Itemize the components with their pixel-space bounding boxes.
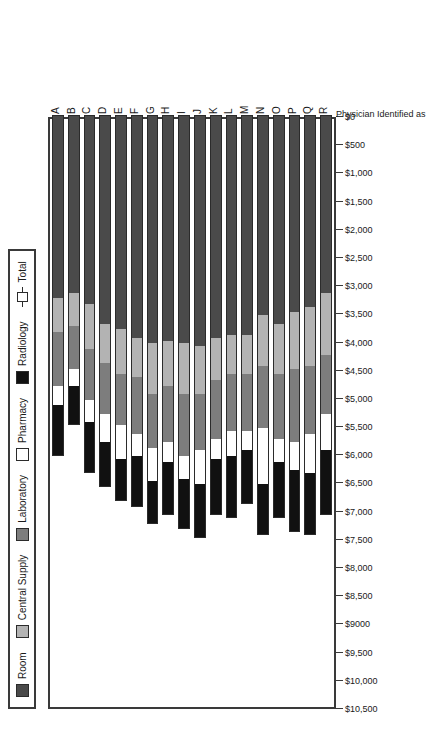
bar-segment-radio[interactable] <box>178 479 190 530</box>
bar-row[interactable] <box>194 119 206 707</box>
bar-segment-lab[interactable] <box>115 374 127 425</box>
bar-segment-room[interactable] <box>131 115 143 338</box>
bar-segment-pharm[interactable] <box>131 434 143 457</box>
bar-segment-room[interactable] <box>241 115 253 335</box>
bar-segment-central[interactable] <box>320 293 332 355</box>
stacked-bar-p[interactable] <box>289 115 301 532</box>
stacked-bar-i[interactable] <box>178 115 190 529</box>
bar-segment-lab[interactable] <box>131 377 143 433</box>
stacked-bar-b[interactable] <box>68 115 80 425</box>
bar-segment-lab[interactable] <box>99 363 111 414</box>
bar-segment-pharm[interactable] <box>99 414 111 442</box>
bar-segment-pharm[interactable] <box>320 414 332 451</box>
bar-segment-pharm[interactable] <box>226 431 238 456</box>
bar-segment-radio[interactable] <box>210 459 222 515</box>
bar-segment-radio[interactable] <box>68 386 80 425</box>
bar-segment-pharm[interactable] <box>84 400 96 423</box>
stacked-bar-g[interactable] <box>147 115 159 524</box>
bar-row[interactable] <box>68 119 80 707</box>
stacked-bar-a[interactable] <box>52 115 64 456</box>
bar-segment-room[interactable] <box>52 115 64 298</box>
bar-segment-central[interactable] <box>178 343 190 394</box>
bar-segment-pharm[interactable] <box>178 456 190 479</box>
bar-segment-central[interactable] <box>241 335 253 374</box>
bar-segment-lab[interactable] <box>194 394 206 450</box>
bar-segment-pharm[interactable] <box>257 428 269 484</box>
bar-segment-central[interactable] <box>84 304 96 349</box>
bar-segment-radio[interactable] <box>115 459 127 501</box>
bar-segment-lab[interactable] <box>304 366 316 434</box>
bar-segment-lab[interactable] <box>273 374 285 439</box>
bar-segment-room[interactable] <box>162 115 174 341</box>
stacked-bar-o[interactable] <box>273 115 285 518</box>
bar-row[interactable] <box>273 119 285 707</box>
bar-segment-central[interactable] <box>194 346 206 394</box>
bar-segment-pharm[interactable] <box>273 439 285 462</box>
bar-segment-room[interactable] <box>289 115 301 312</box>
bar-segment-central[interactable] <box>210 338 222 380</box>
bar-segment-room[interactable] <box>304 115 316 307</box>
stacked-bar-r[interactable] <box>320 115 332 515</box>
bar-segment-central[interactable] <box>115 329 127 374</box>
stacked-bar-f[interactable] <box>131 115 143 507</box>
bar-row[interactable] <box>52 119 64 707</box>
bar-segment-pharm[interactable] <box>241 431 253 451</box>
bar-segment-central[interactable] <box>52 298 64 332</box>
bar-segment-radio[interactable] <box>289 470 301 532</box>
bar-segment-lab[interactable] <box>52 332 64 386</box>
bar-segment-pharm[interactable] <box>162 442 174 462</box>
bar-row[interactable] <box>115 119 127 707</box>
bar-segment-radio[interactable] <box>52 405 64 456</box>
bar-segment-radio[interactable] <box>99 442 111 487</box>
bar-segment-lab[interactable] <box>257 366 269 428</box>
stacked-bar-c[interactable] <box>84 115 96 473</box>
bar-segment-room[interactable] <box>273 115 285 324</box>
bar-segment-radio[interactable] <box>162 462 174 516</box>
stacked-bar-n[interactable] <box>257 115 269 535</box>
bar-segment-central[interactable] <box>68 293 80 327</box>
bar-segment-pharm[interactable] <box>115 425 127 459</box>
stacked-bar-k[interactable] <box>210 115 222 515</box>
bar-segment-lab[interactable] <box>320 355 332 414</box>
bar-row[interactable] <box>257 119 269 707</box>
bar-segment-room[interactable] <box>99 115 111 324</box>
bar-segment-radio[interactable] <box>304 473 316 535</box>
bar-row[interactable] <box>147 119 159 707</box>
bar-segment-radio[interactable] <box>131 456 143 507</box>
bar-segment-central[interactable] <box>162 341 174 386</box>
bar-segment-radio[interactable] <box>194 484 206 538</box>
bar-row[interactable] <box>162 119 174 707</box>
bar-segment-lab[interactable] <box>226 374 238 430</box>
bar-segment-central[interactable] <box>131 338 143 377</box>
bar-segment-lab[interactable] <box>289 369 301 442</box>
bar-segment-central[interactable] <box>273 324 285 375</box>
bar-segment-lab[interactable] <box>178 394 190 456</box>
bar-segment-radio[interactable] <box>320 450 332 515</box>
bar-row[interactable] <box>241 119 253 707</box>
bar-segment-pharm[interactable] <box>304 434 316 473</box>
bar-segment-room[interactable] <box>226 115 238 335</box>
bar-segment-central[interactable] <box>99 324 111 363</box>
stacked-bar-m[interactable] <box>241 115 253 504</box>
bar-segment-pharm[interactable] <box>52 386 64 406</box>
bar-segment-central[interactable] <box>226 335 238 374</box>
bar-row[interactable] <box>320 119 332 707</box>
bar-segment-room[interactable] <box>68 115 80 293</box>
bar-row[interactable] <box>178 119 190 707</box>
bar-segment-lab[interactable] <box>84 349 96 400</box>
stacked-bar-d[interactable] <box>99 115 111 487</box>
bar-segment-pharm[interactable] <box>68 369 80 386</box>
bar-row[interactable] <box>99 119 111 707</box>
bar-segment-room[interactable] <box>210 115 222 338</box>
bar-segment-room[interactable] <box>194 115 206 346</box>
stacked-bar-l[interactable] <box>226 115 238 518</box>
bar-row[interactable] <box>289 119 301 707</box>
bar-segment-room[interactable] <box>320 115 332 293</box>
bar-segment-central[interactable] <box>257 315 269 366</box>
bar-segment-central[interactable] <box>304 307 316 366</box>
bar-segment-central[interactable] <box>147 343 159 394</box>
bar-segment-room[interactable] <box>257 115 269 315</box>
bar-segment-lab[interactable] <box>241 374 253 430</box>
bar-segment-pharm[interactable] <box>289 442 301 470</box>
bar-segment-room[interactable] <box>178 115 190 343</box>
